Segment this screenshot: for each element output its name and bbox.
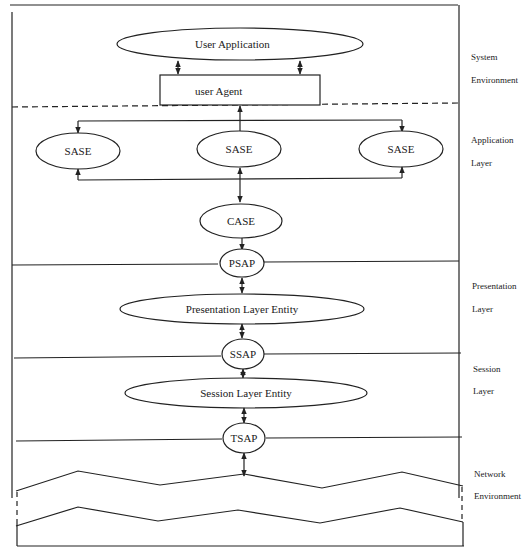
transport-boundary-right <box>266 437 462 438</box>
layer-label-system-2: Environment <box>471 75 518 85</box>
layer-label-network-2: Environment <box>474 491 521 501</box>
presentation-boundary-right <box>264 261 459 262</box>
psap-label: PSAP <box>229 257 255 269</box>
layer-label-system-1: System <box>471 52 498 62</box>
tsap-label: TSAP <box>231 432 258 444</box>
sase-top-bus <box>78 120 402 121</box>
session-boundary-left <box>14 356 221 358</box>
session-entity-label: Session Layer Entity <box>200 387 292 399</box>
presentation-entity-label: Presentation Layer Entity <box>186 303 299 315</box>
sase-right-label: SASE <box>388 143 415 155</box>
layer-label-session-1: Session <box>473 364 501 374</box>
layer-label-presentation-2: Layer <box>472 304 493 314</box>
ssap-label: SSAP <box>230 348 256 360</box>
session-boundary-right <box>264 353 461 354</box>
layer-label-network-1: Network <box>474 469 506 479</box>
network-cloud-top <box>16 471 463 491</box>
layer-label-presentation-1: Presentation <box>472 281 517 291</box>
layer-label-application-1: Application <box>471 135 514 145</box>
transport-boundary-left <box>16 439 222 441</box>
presentation-boundary-left <box>12 264 218 265</box>
layer-label-session-2: Layer <box>473 386 494 396</box>
osi-layer-diagram: User Application user Agent SASE SASE SA… <box>0 0 531 556</box>
sase-left-label: SASE <box>65 145 92 157</box>
case-label: CASE <box>227 215 255 227</box>
user-application-label: User Application <box>195 38 270 50</box>
sase-center-label: SASE <box>226 143 253 155</box>
layer-label-application-2: Layer <box>471 158 492 168</box>
user-agent-label: user Agent <box>195 85 242 97</box>
network-cloud-bottom <box>16 507 463 526</box>
